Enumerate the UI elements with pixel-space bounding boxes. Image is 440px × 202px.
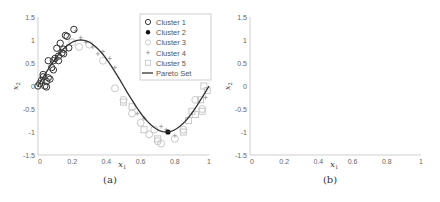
- y-tick-label: -1.5: [235, 152, 247, 159]
- y-tick-label: 0.5: [25, 60, 35, 67]
- legend-label: Cluster 1: [156, 18, 186, 27]
- x-tick-label: 1: [207, 158, 211, 165]
- chart-panel-a: 1.510.50-0.5-1-1.500.20.40.60.81x1x2Clus…: [0, 0, 220, 202]
- y-tick-label: 1: [31, 37, 35, 44]
- cluster3-marker: [111, 85, 118, 92]
- x-tick-label: 1: [419, 158, 423, 165]
- x-tick-label: 0.6: [136, 158, 146, 165]
- y-tick-label: 1: [243, 37, 247, 44]
- legend-label: Pareto Set: [156, 69, 192, 78]
- x-tick-label: 0: [250, 158, 254, 165]
- y-tick-label: 1.5: [25, 14, 35, 21]
- cluster4-marker: [108, 56, 112, 60]
- cluster3-marker: [180, 126, 187, 133]
- cluster3-marker: [129, 110, 136, 117]
- legend-label: Cluster 2: [156, 28, 186, 37]
- legend-cluster2-icon: [146, 30, 150, 34]
- caption-b: (b): [220, 174, 440, 185]
- chart-panel-b: 1.510.50-0.5-1-1.500.20.40.60.81x1x2 (b): [220, 0, 440, 202]
- scatter-plot-a: 1.510.50-0.5-1-1.500.20.40.60.81x1x2Clus…: [0, 0, 220, 202]
- y-tick-label: 1.5: [237, 14, 247, 21]
- y-tick-label: -0.5: [235, 106, 247, 113]
- x-tick-label: 0: [38, 158, 42, 165]
- x-tick-label: 0.8: [382, 158, 392, 165]
- legend-label: Cluster 4: [156, 49, 186, 58]
- cluster3-marker: [76, 43, 83, 50]
- y-tick-label: -1.5: [23, 152, 35, 159]
- y-tick-label: -1: [29, 129, 35, 136]
- cluster4-marker: [96, 52, 100, 56]
- cluster1-marker: [57, 40, 63, 46]
- y-tick-label: 0: [243, 83, 247, 90]
- y-tick-label: 0.5: [237, 60, 247, 67]
- x-tick-label: 0.2: [67, 158, 77, 165]
- x-axis-label: x1: [330, 160, 338, 170]
- legend-label: Cluster 3: [156, 38, 186, 47]
- x-tick-label: 0.4: [102, 158, 112, 165]
- scatter-plot-b: 1.510.50-0.5-1-1.500.20.40.60.81x1x2: [220, 0, 440, 202]
- cluster4-marker: [173, 134, 177, 138]
- x-tick-label: 0.8: [170, 158, 180, 165]
- y-axis-label: x2: [223, 82, 233, 90]
- cluster3-marker: [120, 96, 127, 103]
- cluster4-marker: [79, 36, 83, 40]
- y-tick-label: -1: [241, 129, 247, 136]
- x-tick-label: 0.4: [314, 158, 324, 165]
- caption-a: (a): [0, 174, 220, 185]
- x-tick-label: 0.6: [348, 158, 358, 165]
- cluster1-marker: [71, 26, 77, 32]
- x-tick-label: 0.2: [279, 158, 289, 165]
- cluster3-marker: [199, 106, 206, 113]
- y-tick-label: -0.5: [23, 106, 35, 113]
- legend-label: Cluster 5: [156, 59, 186, 68]
- cluster4-marker: [204, 96, 208, 100]
- x-axis-label: x1: [118, 160, 126, 170]
- cluster4-marker: [159, 124, 163, 128]
- y-axis-label: x2: [11, 82, 21, 90]
- cluster3-marker: [137, 119, 144, 126]
